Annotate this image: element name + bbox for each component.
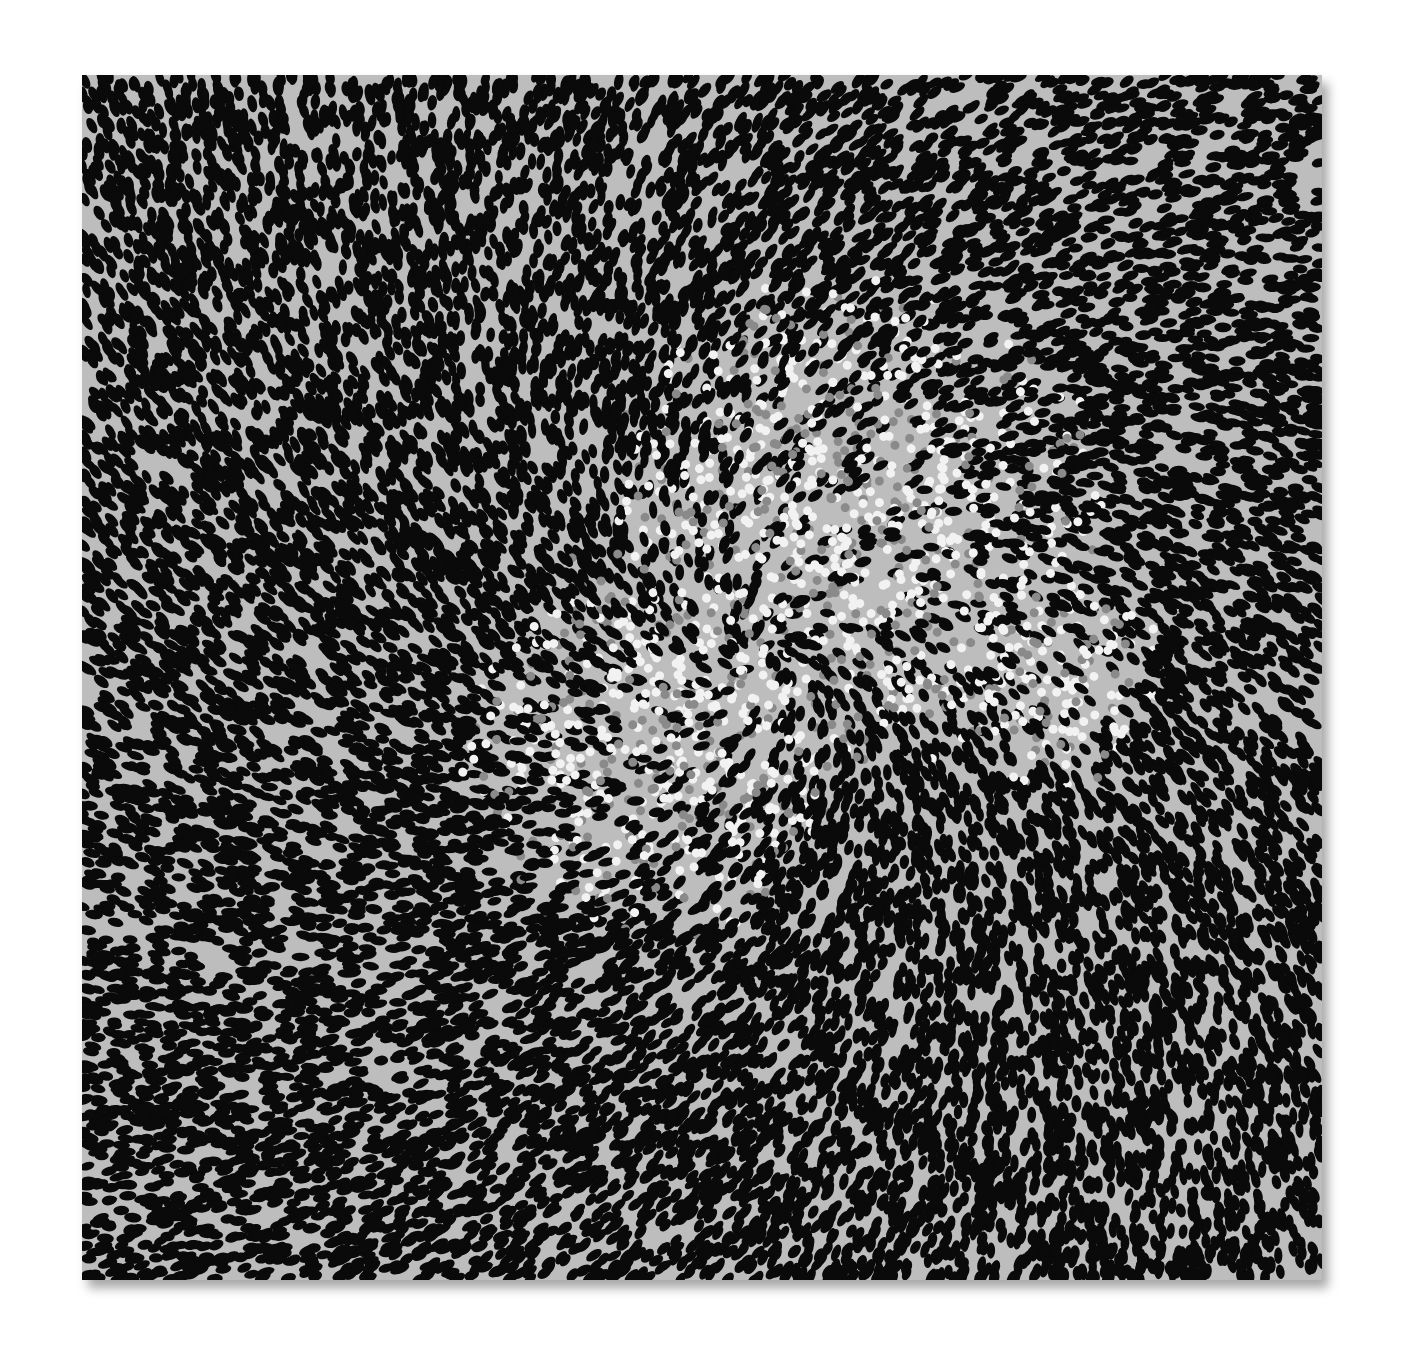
- dotted-artwork: [82, 75, 1322, 1280]
- painting-canvas: [82, 75, 1322, 1280]
